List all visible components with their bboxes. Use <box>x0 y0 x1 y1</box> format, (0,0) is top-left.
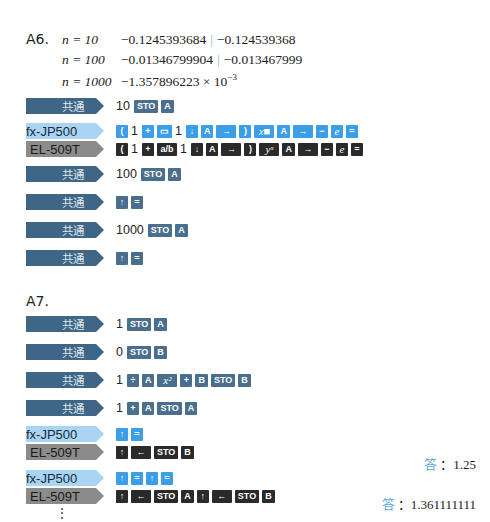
calculator-key: A <box>161 100 174 113</box>
calculator-key: B <box>238 374 251 387</box>
answer-2: 答：1.361111111 <box>382 494 476 513</box>
key-label: + <box>130 404 135 413</box>
separator: | <box>217 52 220 67</box>
key-label: A <box>184 492 191 501</box>
key-label: STO <box>144 170 162 179</box>
key-label: STO <box>160 404 178 413</box>
calculator-key: ↑ <box>116 252 128 265</box>
key-label: ▭ <box>160 127 169 136</box>
el-509t-tag: EL-509T <box>26 444 96 460</box>
calculator-key: A <box>185 402 198 415</box>
key-sequence: 1+ASTOA <box>116 401 197 415</box>
calculator-key: ↑ <box>197 490 209 503</box>
key-label: ) <box>244 127 247 136</box>
calculator-key: STO <box>154 490 178 503</box>
key-label: STO <box>137 102 155 111</box>
calculator-key: STO <box>154 446 178 459</box>
key-sequence: ↑= <box>116 196 143 209</box>
calculator-key: ( <box>116 125 128 138</box>
key-label: A <box>145 404 152 413</box>
calculator-key: ( <box>116 143 128 156</box>
key-label: → <box>303 145 312 154</box>
calculator-key: e <box>336 143 348 156</box>
calculator-key: yˣ <box>259 143 279 156</box>
calculator-key: ) <box>239 125 251 138</box>
calculator-key: + <box>142 125 154 138</box>
calculator-key: = <box>351 143 363 156</box>
calculator-key: ▭ <box>157 125 172 138</box>
keystroke-row-el: EL-509T↑←STOB <box>26 444 194 460</box>
key-label: → <box>298 127 307 136</box>
keystroke-row-common: 共通1000STOA <box>26 222 188 238</box>
common-tag: 共通 <box>26 316 96 332</box>
n-value: n = 1000 <box>62 74 121 90</box>
key-label: STO <box>151 226 169 235</box>
key-sequence: 1÷Ax²+BSTOB <box>116 373 251 387</box>
calculator-key: → <box>298 143 318 156</box>
fx-jp500-tag: fx-JP500 <box>26 123 96 139</box>
number-input: 100 <box>116 167 137 181</box>
calculator-key: → <box>221 143 241 156</box>
calculator-key: ← <box>131 446 151 459</box>
calculator-key: = <box>161 472 173 485</box>
calculator-key: A <box>181 490 194 503</box>
key-label: ↑ <box>201 492 206 501</box>
answer-1: 答：1.25 <box>424 454 476 473</box>
calculator-key: ↑ <box>116 446 128 459</box>
keystroke-row-fx: fx-JP500↑= <box>26 426 143 442</box>
key-label: + <box>145 127 150 136</box>
key-label: + <box>145 145 150 154</box>
continuation-dots: ⋮ <box>56 506 68 520</box>
number-input: 1 <box>116 401 123 415</box>
key-label: ← <box>137 492 146 501</box>
key-sequence: ↑←STOB <box>116 446 194 459</box>
el-509t-tag: EL-509T <box>26 141 96 157</box>
key-sequence: 10STOA <box>116 99 174 113</box>
key-label: = <box>164 474 169 483</box>
key-label: A <box>178 226 185 235</box>
result-value: −0.01346799904 <box>121 52 213 67</box>
number-input: 1 <box>116 373 123 387</box>
result-value: −1.357896223 × 10 <box>121 74 227 89</box>
key-label: A <box>145 376 152 385</box>
calculator-key: STO <box>134 100 158 113</box>
calculator-key: − <box>321 143 333 156</box>
calculator-key: ↑ <box>116 196 128 209</box>
calculator-key: + <box>180 374 192 387</box>
key-label: ↑ <box>120 198 125 207</box>
keystroke-row-common: 共通↑= <box>26 250 143 266</box>
common-tag: 共通 <box>26 222 96 238</box>
key-label: STO <box>214 376 232 385</box>
a6-line-2: n = 100−0.01346799904|−0.013467999 <box>62 52 302 68</box>
a6-line-1: n = 10−0.1245393684|−0.124539368 <box>62 32 295 48</box>
calculator-key: ↓ <box>191 143 203 156</box>
key-label: → <box>222 127 231 136</box>
key-sequence: 1000STOA <box>116 223 188 237</box>
number-input: 1 <box>131 142 138 156</box>
key-label: ↑ <box>120 254 125 263</box>
key-label: e <box>339 144 344 155</box>
common-tag: 共通 <box>26 250 96 266</box>
calculator-key: ← <box>212 490 232 503</box>
keystroke-row-common: 共通100STOA <box>26 166 181 182</box>
key-label: a/b <box>160 145 173 154</box>
key-sequence: ↑←STOA↑←STOB <box>116 490 275 503</box>
calculator-key: STO <box>235 490 259 503</box>
common-tag: 共通 <box>26 98 96 114</box>
key-label: B <box>157 348 164 357</box>
key-label: = <box>134 474 139 483</box>
calculator-key: = <box>131 252 143 265</box>
answer-value: ：1.25 <box>440 457 476 472</box>
calculator-key: ) <box>244 143 256 156</box>
number-input: 10 <box>116 99 130 113</box>
key-label: → <box>227 145 236 154</box>
keystroke-row-fx: fx-JP500↑=↑= <box>26 470 173 486</box>
key-label: ( <box>121 127 124 136</box>
calculator-key: ↑ <box>116 428 128 441</box>
key-label: x² <box>163 375 171 386</box>
key-sequence: (1+▭1↓A→)x■A→−e= <box>116 124 358 138</box>
key-label: B <box>184 448 191 457</box>
calculator-key: STO <box>127 318 151 331</box>
calculator-key: A <box>142 374 155 387</box>
key-label: ↑ <box>120 474 125 483</box>
